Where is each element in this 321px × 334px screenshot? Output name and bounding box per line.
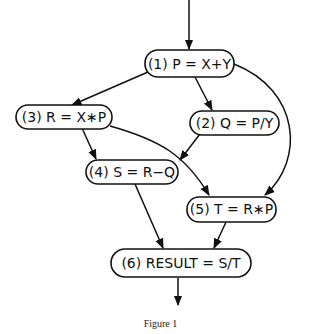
- node-2-label: (2) Q = P/Y: [196, 115, 274, 131]
- node-2: (2) Q = P/Y: [190, 111, 279, 135]
- node-4-label: (4) S = R−Q: [89, 164, 175, 180]
- node-5: (5) T = R∗P: [187, 197, 276, 222]
- node-6: (6) RESULT = S/T: [111, 249, 251, 277]
- node-1: (1) P = X+Y: [145, 50, 234, 77]
- node-4: (4) S = R−Q: [86, 160, 178, 184]
- figure-caption: Figure 1: [0, 318, 321, 329]
- edge-n2-to-n4: [180, 134, 200, 160]
- node-3-label: (3) R = X∗P: [22, 109, 106, 125]
- node-3: (3) R = X∗P: [16, 105, 112, 129]
- node-5-label: (5) T = R∗P: [190, 201, 273, 217]
- edge-n1-to-n3: [72, 72, 148, 105]
- node-1-label: (1) P = X+Y: [148, 56, 232, 72]
- edge-n5-to-n6: [214, 222, 226, 248]
- edge-n3-to-n4: [82, 128, 96, 159]
- node-6-label: (6) RESULT = S/T: [121, 255, 241, 271]
- edge-n4-to-n6: [135, 184, 163, 248]
- dataflow-diagram: (1) P = X+Y (3) R = X∗P (2) Q = P/Y (4) …: [0, 0, 321, 334]
- edge-n1-to-n2: [195, 77, 212, 110]
